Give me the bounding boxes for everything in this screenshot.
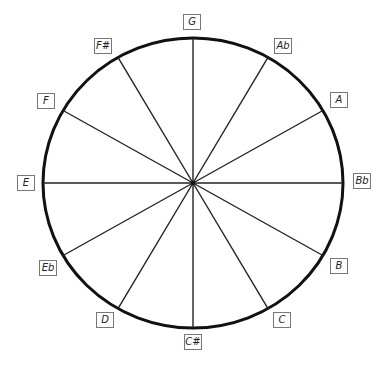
note-label-f: F <box>37 93 55 109</box>
spoke-line <box>118 57 193 183</box>
note-label-b: B <box>330 258 348 274</box>
spoke-line <box>193 57 268 183</box>
note-label-bb: Bb <box>353 173 371 189</box>
spoke-line <box>193 183 268 309</box>
note-label-c: C <box>273 312 291 328</box>
note-label-ab: Ab <box>274 38 292 54</box>
spoke-line <box>193 183 323 256</box>
note-label-csharp: C# <box>184 334 202 350</box>
spoke-line <box>118 183 193 309</box>
spoke-line <box>193 111 323 184</box>
spoke-line <box>63 111 193 184</box>
center-point <box>191 181 195 185</box>
spoke-line <box>63 183 193 256</box>
note-label-d: D <box>96 312 114 328</box>
note-label-g: G <box>183 14 201 30</box>
note-label-e: E <box>17 175 35 191</box>
circle-diagram <box>0 0 384 365</box>
note-label-eb: Eb <box>39 260 57 276</box>
note-label-a: A <box>330 92 348 108</box>
note-label-fsharp: F# <box>94 38 112 54</box>
